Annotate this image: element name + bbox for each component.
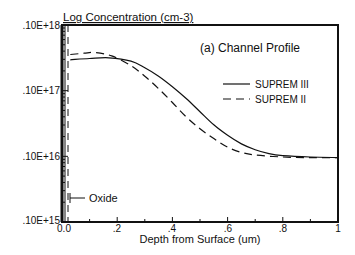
- y-tick-label-18: .10E+18: [22, 20, 60, 31]
- x-tick-label-1: 1: [335, 223, 341, 234]
- x-tick-label-0.2: .2: [113, 223, 122, 234]
- x-axis-title: Depth from Surface (um): [139, 233, 260, 245]
- oxide-label: Oxide: [89, 192, 118, 204]
- y-axis-title: Log Concentration (cm-3): [63, 11, 194, 23]
- series-suprem-iii: [70, 58, 338, 158]
- y-tick-label-17: .10E+17: [22, 85, 60, 96]
- chart-title: (a) Channel Profile: [200, 41, 300, 55]
- x-tick-label-0.8: .8: [279, 223, 288, 234]
- legend: SUPREM III SUPREM II: [223, 79, 309, 105]
- y-tick-label-16: .10E+16: [22, 151, 60, 162]
- legend-label-suprem-ii: SUPREM II: [255, 94, 306, 105]
- legend-label-suprem-iii: SUPREM III: [255, 79, 309, 90]
- y-tick-label-15: .10E+15: [22, 215, 60, 226]
- chart: Log Concentration (cm-3) .10E+18 .10E+17…: [0, 0, 355, 255]
- oxide-annotation: Oxide: [70, 192, 118, 204]
- series-suprem-ii: [70, 52, 338, 157]
- x-tick-label-0: 0.0: [57, 223, 71, 234]
